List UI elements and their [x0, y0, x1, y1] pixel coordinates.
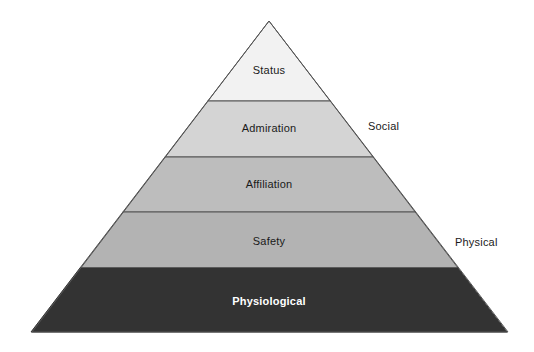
pyramid-tier-admiration[interactable] — [165, 101, 373, 157]
pyramid-tier-safety[interactable] — [80, 212, 458, 268]
pyramid-tier-status[interactable] — [208, 21, 330, 101]
pyramid-diagram: Status Admiration Affiliation Safety Phy… — [0, 0, 534, 352]
pyramid-shape-layer — [0, 0, 534, 352]
pyramid-tier-physiological[interactable] — [31, 268, 507, 332]
pyramid-tier-affiliation[interactable] — [123, 157, 415, 212]
